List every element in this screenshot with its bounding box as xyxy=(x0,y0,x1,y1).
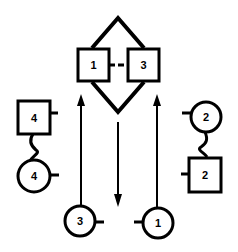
circle-4-left-label: 4 xyxy=(31,170,38,182)
left-pair: 4 4 xyxy=(18,101,59,192)
diamond-bottom xyxy=(92,82,144,112)
arrow-right-up-head xyxy=(153,94,161,106)
diamond-top xyxy=(92,18,144,48)
pedigree-diagram: 1 3 4 4 2 2 3 1 xyxy=(0,0,238,252)
zigzag-connector-left xyxy=(30,134,37,161)
zigzag-connector-right xyxy=(200,132,207,157)
square-3-center-label: 3 xyxy=(140,59,146,71)
arrow-center-down-head xyxy=(114,194,122,207)
square-4-left-label: 4 xyxy=(31,112,38,124)
circle-3-bottom-label: 3 xyxy=(77,215,83,227)
square-2-right-label: 2 xyxy=(202,169,208,181)
square-1-center-label: 1 xyxy=(90,59,96,71)
circle-1-bottom-label: 1 xyxy=(155,217,161,229)
arrow-left-up-head xyxy=(77,94,85,106)
circle-2-right-label: 2 xyxy=(203,111,209,123)
bottom-group: 3 1 xyxy=(65,206,173,238)
center-group: 1 3 xyxy=(78,18,159,112)
right-pair: 2 2 xyxy=(181,102,221,192)
